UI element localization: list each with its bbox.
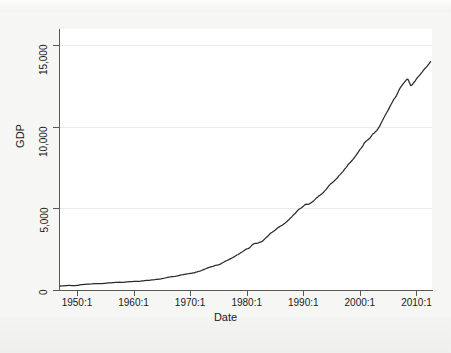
x-axis-title: Date — [0, 311, 451, 323]
series-layer — [0, 0, 451, 353]
figure-screenshot: 05,00010,00015,000 1950:11960:11970:1198… — [0, 0, 451, 353]
series-line-gdp — [60, 62, 431, 286]
y-axis-title: GDP — [14, 124, 26, 148]
gdp-time-series-chart: 05,00010,00015,000 1950:11960:11970:1198… — [0, 0, 451, 353]
